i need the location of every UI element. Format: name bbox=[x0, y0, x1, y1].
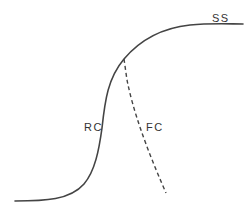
label-ss: SS bbox=[212, 12, 230, 24]
label-rc: RC bbox=[84, 121, 103, 133]
s-curve-solid-line bbox=[15, 24, 243, 201]
label-fc: FC bbox=[146, 121, 164, 133]
s-curve-diagram: SS RC FC bbox=[0, 0, 247, 209]
